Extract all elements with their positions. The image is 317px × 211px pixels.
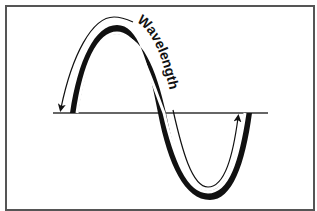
- wavelength-diagram: Wavelength: [0, 0, 317, 211]
- wavelength-label-text: Wavelength: [134, 11, 182, 90]
- wavelength-label: Wavelength: [134, 11, 182, 90]
